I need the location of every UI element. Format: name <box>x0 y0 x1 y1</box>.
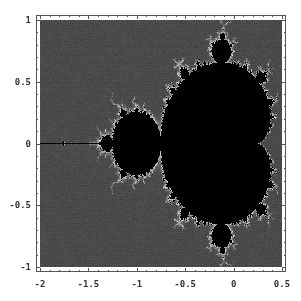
tick-mark <box>50 15 51 17</box>
y-tick-label: 0 <box>26 139 31 149</box>
y-tick-label: 1 <box>26 15 31 25</box>
tick-mark <box>284 32 286 33</box>
y-tick-label: 0.5 <box>15 77 31 87</box>
tick-mark <box>79 15 80 17</box>
tick-mark <box>146 270 147 272</box>
tick-mark <box>284 131 286 132</box>
tick-mark <box>284 106 286 107</box>
tick-mark <box>36 255 38 256</box>
tick-mark <box>98 15 99 17</box>
tick-mark <box>50 270 51 272</box>
tick-mark <box>176 270 177 272</box>
x-tick-label: 0.5 <box>274 279 290 289</box>
tick-mark <box>195 270 196 272</box>
tick-mark <box>117 15 118 17</box>
tick-mark <box>214 270 215 272</box>
tick-mark <box>36 144 40 145</box>
tick-mark <box>79 270 80 272</box>
tick-mark <box>243 270 244 272</box>
tick-mark <box>284 193 286 194</box>
mandelbrot-chart: -2-1.5-1-0.500.5 10.50-0.5-1 <box>0 0 301 301</box>
tick-mark <box>36 82 40 83</box>
tick-mark <box>137 15 138 19</box>
tick-mark <box>36 242 38 243</box>
tick-mark <box>284 168 286 169</box>
tick-mark <box>272 15 273 17</box>
tick-mark <box>282 82 286 83</box>
tick-mark <box>108 15 109 17</box>
tick-mark <box>185 15 186 19</box>
tick-mark <box>36 181 38 182</box>
tick-mark <box>40 15 41 19</box>
tick-mark <box>69 270 70 272</box>
tick-mark <box>284 94 286 95</box>
tick-mark <box>284 242 286 243</box>
tick-mark <box>195 15 196 17</box>
tick-mark <box>284 69 286 70</box>
tick-mark <box>117 270 118 272</box>
plot-area <box>40 20 282 267</box>
tick-mark <box>284 45 286 46</box>
tick-mark <box>284 156 286 157</box>
tick-mark <box>36 205 40 206</box>
tick-mark <box>282 15 283 19</box>
tick-mark <box>36 267 40 268</box>
tick-mark <box>263 15 264 17</box>
tick-mark <box>263 270 264 272</box>
tick-mark <box>36 32 38 33</box>
tick-mark <box>36 45 38 46</box>
tick-mark <box>40 268 41 272</box>
tick-mark <box>205 270 206 272</box>
tick-mark <box>282 205 286 206</box>
tick-mark <box>127 270 128 272</box>
tick-mark <box>185 268 186 272</box>
tick-mark <box>36 168 38 169</box>
tick-mark <box>224 15 225 17</box>
tick-mark <box>88 268 89 272</box>
tick-mark <box>234 268 235 272</box>
tick-mark <box>36 69 38 70</box>
x-tick-label: -1 <box>131 279 142 289</box>
tick-mark <box>282 267 286 268</box>
tick-mark <box>156 15 157 17</box>
tick-mark <box>234 15 235 19</box>
y-tick-label: -1 <box>20 262 31 272</box>
tick-mark <box>146 15 147 17</box>
tick-mark <box>282 20 286 21</box>
tick-mark <box>253 15 254 17</box>
tick-mark <box>127 15 128 17</box>
tick-mark <box>137 268 138 272</box>
tick-mark <box>36 20 40 21</box>
x-tick-label: -1.5 <box>78 279 100 289</box>
tick-mark <box>59 270 60 272</box>
x-tick-label: 0 <box>231 279 236 289</box>
tick-mark <box>98 270 99 272</box>
tick-mark <box>284 230 286 231</box>
tick-mark <box>253 270 254 272</box>
tick-mark <box>243 15 244 17</box>
tick-mark <box>36 57 38 58</box>
tick-mark <box>214 15 215 17</box>
tick-mark <box>69 15 70 17</box>
tick-mark <box>36 119 38 120</box>
tick-mark <box>282 144 286 145</box>
tick-mark <box>156 270 157 272</box>
tick-mark <box>59 15 60 17</box>
tick-mark <box>166 15 167 17</box>
tick-mark <box>272 270 273 272</box>
tick-mark <box>166 270 167 272</box>
tick-mark <box>36 230 38 231</box>
tick-mark <box>36 218 38 219</box>
tick-mark <box>284 218 286 219</box>
tick-mark <box>282 268 283 272</box>
tick-mark <box>36 131 38 132</box>
tick-mark <box>205 15 206 17</box>
tick-mark <box>36 156 38 157</box>
tick-mark <box>284 119 286 120</box>
tick-mark <box>36 193 38 194</box>
tick-mark <box>176 15 177 17</box>
tick-mark <box>36 94 38 95</box>
y-tick-label: -0.5 <box>9 200 31 210</box>
tick-mark <box>224 270 225 272</box>
x-tick-label: -2 <box>35 279 46 289</box>
